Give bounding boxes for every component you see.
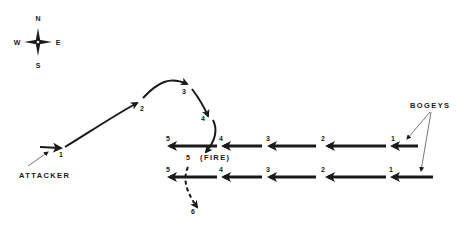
- compass-rose-icon: N S E W: [14, 15, 61, 69]
- bogey-bottom-point-3: 3: [266, 166, 270, 173]
- attacker-point-2: 2: [140, 105, 144, 112]
- bogey-bottom-point-4: 4: [219, 166, 223, 173]
- compass-west-arrow: [24, 40, 38, 45]
- attacker-label: ATTACKER: [19, 171, 70, 180]
- bogey-bottom-point-1: 1: [389, 166, 393, 173]
- compass-east-label: E: [56, 39, 61, 46]
- attacker-point-5: 5: [186, 154, 190, 161]
- bogey-track-bottom: 1 2 3 4 5: [166, 166, 433, 177]
- compass-west-label: W: [14, 39, 21, 46]
- bogey-top-point-2: 2: [321, 135, 325, 142]
- attacker-point-6: 6: [191, 208, 195, 215]
- attacker-point-1: 1: [59, 151, 63, 158]
- bogey-bottom-point-2: 2: [321, 166, 325, 173]
- attacker-arrow-4: [192, 89, 208, 116]
- attacker-pointer: [28, 152, 48, 166]
- bogey-bottom-point-5: 5: [166, 166, 170, 173]
- compass-south-label: S: [36, 62, 41, 69]
- compass-east-arrow: [38, 40, 52, 45]
- bogey-top-point-3: 3: [266, 135, 270, 142]
- attacker-arrow-3: [143, 80, 187, 98]
- attacker-arrow-2: [65, 103, 137, 147]
- compass-north-label: N: [35, 15, 40, 22]
- attacker-point-3: 3: [182, 88, 186, 95]
- bogey-top-point-4: 4: [219, 135, 223, 142]
- attacker-point-4: 4: [201, 115, 205, 122]
- bogey-top-point-5: 5: [166, 135, 170, 142]
- attacker-path: 1 2 3 4 5 6 (FIRE): [40, 80, 230, 215]
- bogey-track-top: 1 2 3 4 5: [166, 135, 418, 146]
- fire-label: (FIRE): [200, 153, 230, 162]
- bogeys-pointer-top: [407, 112, 430, 139]
- attacker-arrow-1: [40, 147, 60, 148]
- bogeys-label: BOGEYS: [410, 101, 451, 110]
- bogey-top-point-1: 1: [391, 135, 395, 142]
- intercept-diagram: N S E W 1 2 3 4 5 6 (FIRE) ATTACKER 1 2 …: [0, 0, 460, 227]
- attacker-arrow-6-dashed: [185, 167, 197, 207]
